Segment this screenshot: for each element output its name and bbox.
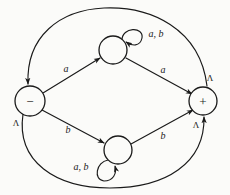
edge-label-top-to-plus: a (161, 64, 166, 75)
edge-minus-to-top (43, 58, 100, 93)
edge-label-bottom-to-plus: b (161, 130, 166, 141)
node-bottom[interactable] (104, 136, 132, 164)
diagram-canvas: − + a a b b a, b a, b Λ Λ Λ (0, 0, 230, 195)
edge-label-plus-to-minus-top-arc: Λ (207, 73, 214, 83)
node-top[interactable] (99, 36, 127, 64)
edge-top-to-plus (126, 58, 192, 94)
edge-minus-to-bottom (42, 110, 104, 143)
edge-label-minus-to-plus-bottom-arc: Λ (13, 118, 20, 128)
node-plus-glyph: + (199, 94, 206, 109)
edge-label-minus-to-top: a (64, 63, 69, 74)
edge-label-bottom-self-loop: a, b (74, 161, 89, 172)
edge-label-minus-to-bottom: b (66, 124, 71, 135)
label-plus-lower-lambda: Λ (193, 120, 200, 130)
edge-label-top-self-loop: a, b (149, 28, 164, 39)
node-minus-glyph: − (26, 94, 33, 109)
